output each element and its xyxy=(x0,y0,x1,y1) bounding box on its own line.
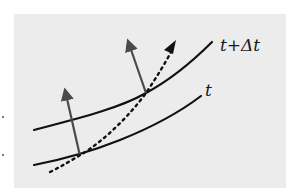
normal-arrow-upper xyxy=(128,41,146,93)
curve-t-plus-dt xyxy=(34,42,212,130)
dotted-ray xyxy=(50,50,172,172)
ray-arrowhead-icon xyxy=(164,40,176,54)
stray-dot-1 xyxy=(2,116,4,118)
normal-arrow-lower xyxy=(65,90,80,156)
label-t: t xyxy=(205,82,212,99)
label-t-plus-dt: t+Δt xyxy=(220,37,260,54)
wavefront-diagram xyxy=(0,0,298,192)
stray-dot-2 xyxy=(2,154,4,156)
